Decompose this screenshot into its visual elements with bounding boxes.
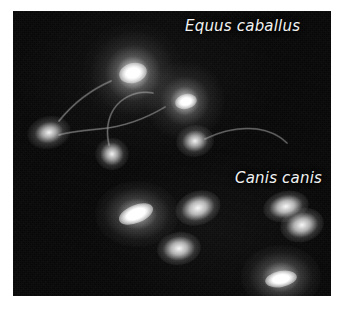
flagellum-3-core	[108, 92, 154, 145]
sperm-nucleus-equus-2	[174, 92, 199, 111]
flagellum-3	[108, 92, 154, 145]
sperm-cell-canis-6	[241, 245, 321, 296]
sperm-cell-equus-5	[174, 122, 217, 160]
sperm-nucleus-canis-6	[264, 268, 298, 289]
flagellum-1	[59, 81, 111, 121]
species-label-canis-canis: Canis canis	[235, 169, 322, 187]
sperm-cell-canis-3	[155, 229, 203, 268]
sperm-nucleus-equus-1	[117, 60, 149, 86]
flagellum-4-core	[205, 128, 287, 143]
flagellum-4	[205, 128, 287, 143]
micrograph-plate: Equus caballus Canis canis	[13, 11, 331, 296]
sperm-nucleus-canis-1	[116, 199, 156, 229]
sperm-cell-canis-2	[171, 185, 225, 232]
sperm-cell-canis-4	[260, 187, 311, 227]
sperm-cell-equus-1	[83, 23, 183, 123]
flagellum-1-core	[59, 81, 111, 121]
sperm-cell-equus-3	[24, 112, 74, 153]
field-illumination-glow	[13, 11, 331, 296]
sperm-cell-canis-1	[95, 181, 179, 247]
species-label-equus-caballus: Equus caballus	[185, 17, 300, 35]
sensor-noise-texture	[13, 11, 331, 296]
micrograph-figure: Equus caballus Canis canis	[0, 0, 345, 317]
sperm-cell-equus-2	[145, 61, 225, 141]
sperm-cell-canis-5	[277, 203, 328, 247]
flagella-layer	[13, 11, 331, 296]
flagellum-2	[59, 107, 165, 135]
flagellum-2-core	[59, 107, 165, 135]
sperm-cell-equus-4	[95, 138, 129, 170]
